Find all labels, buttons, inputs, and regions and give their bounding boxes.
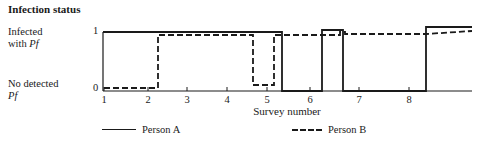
- dashed-line-icon: [292, 129, 322, 131]
- solid-line-icon: [102, 129, 136, 130]
- x-axis-label: Survey number: [253, 105, 321, 117]
- legend-person-a-label: Person A: [142, 124, 180, 135]
- x-tick-label-4: 4: [224, 94, 229, 105]
- x-tick-label-7: 7: [356, 94, 361, 105]
- legend-person-a: Person A: [102, 124, 180, 135]
- x-tick-label-5: 5: [264, 94, 269, 105]
- legend-person-b: Person B: [292, 124, 366, 135]
- x-tick-label-3: 3: [184, 94, 189, 105]
- x-tick-label-8: 8: [406, 94, 411, 105]
- plot-area: [0, 0, 478, 146]
- series-person-b: [104, 31, 472, 88]
- legend-person-b-label: Person B: [328, 124, 366, 135]
- x-tick-label-6: 6: [307, 94, 312, 105]
- x-tick-label-1: 1: [101, 94, 106, 105]
- x-tick-label-2: 2: [145, 94, 150, 105]
